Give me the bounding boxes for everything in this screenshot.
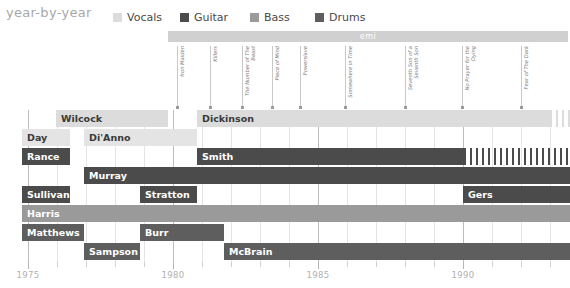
x-axis: 1975198019851990 bbox=[0, 262, 570, 288]
axis-tick-1975 bbox=[28, 262, 29, 269]
stripe bbox=[542, 148, 544, 165]
axis-tick-1986 bbox=[347, 262, 348, 267]
stripe bbox=[464, 148, 466, 165]
timeline-bar-stratton[interactable]: Stratton bbox=[140, 186, 197, 203]
legend-swatch-icon bbox=[315, 13, 324, 22]
axis-tick-1988 bbox=[405, 262, 406, 267]
timeline-bar-dianno[interactable]: Di'Anno bbox=[84, 129, 197, 146]
timeline-bar-label: Sullivan bbox=[27, 186, 70, 203]
legend-item-bass[interactable]: Bass bbox=[250, 7, 290, 21]
legend-item-vocals[interactable]: Vocals bbox=[113, 7, 162, 21]
legend-swatch-icon bbox=[180, 13, 189, 22]
page-title: year-by-year bbox=[6, 5, 92, 20]
stripe bbox=[482, 148, 484, 165]
timeline-bar-label: Murray bbox=[89, 167, 127, 184]
album-marker-dot-icon bbox=[404, 106, 407, 109]
timeline-row: RanceSmith bbox=[0, 148, 570, 165]
album-marker-label: The Number of The Beast bbox=[244, 46, 256, 106]
album-marker-line bbox=[521, 46, 522, 108]
timeline-bar-sullivan[interactable]: Sullivan bbox=[22, 186, 70, 203]
timeline-bar-murray[interactable]: Murray bbox=[84, 167, 570, 184]
axis-tick-1981 bbox=[202, 262, 203, 267]
album-marker-dot-icon bbox=[461, 106, 464, 109]
timeline-bar-harris[interactable]: Harris bbox=[22, 205, 570, 222]
chart-header: year-by-year VocalsGuitarBassDrums bbox=[0, 0, 570, 28]
axis-tick-1980 bbox=[173, 262, 174, 269]
timeline-bar-smith[interactable]: Smith bbox=[197, 148, 464, 165]
axis-tick-1990 bbox=[463, 262, 464, 269]
album-marker-dot-icon bbox=[271, 106, 274, 109]
timeline-bar-label: Dickinson bbox=[202, 110, 254, 127]
axis-label-1985: 1985 bbox=[306, 270, 329, 280]
album-marker-dot-icon bbox=[176, 106, 179, 109]
axis-tick-1991 bbox=[492, 262, 493, 267]
label-bar-emi-text: emi bbox=[168, 31, 568, 42]
timeline-bar-dickinson[interactable]: Dickinson bbox=[197, 110, 552, 127]
timeline-bar-stripes bbox=[464, 148, 570, 165]
stripe bbox=[554, 148, 556, 165]
timeline-bar-label: Rance bbox=[27, 148, 60, 165]
album-marker-dot-icon bbox=[209, 106, 212, 109]
timeline-bar-mcbrain[interactable]: McBrain bbox=[224, 243, 570, 260]
stripe bbox=[470, 148, 472, 165]
timeline-row: Murray bbox=[0, 167, 570, 184]
album-marker-label: Somewhere in Time bbox=[347, 46, 353, 106]
timeline-bar-rance[interactable]: Rance bbox=[22, 148, 70, 165]
album-marker-dot-icon bbox=[241, 106, 244, 109]
album-marker-line bbox=[405, 46, 406, 108]
stripe bbox=[506, 148, 508, 165]
album-marker-label: Piece of Mind bbox=[274, 46, 280, 106]
timeline-plot: WilcockDickinsonDayDi'AnnoRanceSmithMurr… bbox=[0, 110, 570, 262]
axis-label-1980: 1980 bbox=[161, 270, 184, 280]
legend-item-drums[interactable]: Drums bbox=[315, 7, 365, 21]
album-marker-label: Fear of The Dark bbox=[523, 46, 529, 106]
stripe bbox=[494, 148, 496, 165]
axis-tick-1982 bbox=[231, 262, 232, 267]
timeline-row: SullivanStrattonGers bbox=[0, 186, 570, 203]
album-marker-line bbox=[210, 46, 211, 108]
axis-tick-1977 bbox=[86, 262, 87, 267]
album-marker-label: Powerslave bbox=[302, 46, 308, 106]
album-marker-dot-icon bbox=[520, 106, 523, 109]
axis-label-1975: 1975 bbox=[16, 270, 39, 280]
stripe bbox=[548, 148, 550, 165]
stripe bbox=[488, 148, 490, 165]
axis-tick-1976 bbox=[57, 262, 58, 267]
album-marker-label: Killers bbox=[212, 46, 218, 106]
axis-tick-1987 bbox=[376, 262, 377, 267]
axis-tick-1978 bbox=[115, 262, 116, 267]
timeline-row: Harris bbox=[0, 205, 570, 222]
legend-label: Guitar bbox=[194, 11, 228, 24]
legend-label: Bass bbox=[264, 11, 290, 24]
timeline-bar-label: Day bbox=[27, 129, 47, 146]
axis-label-1990: 1990 bbox=[451, 270, 474, 280]
legend-item-guitar[interactable]: Guitar bbox=[180, 7, 228, 21]
album-marker-line bbox=[462, 46, 463, 108]
timeline-bar-label: Burr bbox=[145, 224, 168, 241]
stripe bbox=[566, 148, 568, 165]
stripe bbox=[562, 110, 564, 127]
stripe bbox=[512, 148, 514, 165]
stripe bbox=[560, 148, 562, 165]
stripe bbox=[530, 148, 532, 165]
album-marker-label: No Prayer for the Dying bbox=[464, 46, 476, 106]
axis-tick-1989 bbox=[434, 262, 435, 267]
axis-tick-1992 bbox=[521, 262, 522, 267]
album-marker-dot-icon bbox=[344, 106, 347, 109]
timeline-bar-day[interactable]: Day bbox=[22, 129, 70, 146]
album-marker-line bbox=[177, 46, 178, 108]
legend-swatch-icon bbox=[113, 13, 122, 22]
timeline-bar-gers[interactable]: Gers bbox=[463, 186, 570, 203]
album-marker-line bbox=[242, 46, 243, 108]
label-bar-emi: emi bbox=[168, 31, 568, 42]
album-marker-line bbox=[345, 46, 346, 108]
timeline-row: SampsonMcBrain bbox=[0, 243, 570, 260]
timeline-row: MatthewsBurr bbox=[0, 224, 570, 241]
album-label-band: emi Iron MaidenKillersThe Number of The … bbox=[0, 30, 570, 108]
legend-label: Vocals bbox=[127, 11, 162, 24]
timeline-bar-burr[interactable]: Burr bbox=[140, 224, 224, 241]
timeline-bar-sampson[interactable]: Sampson bbox=[84, 243, 140, 260]
timeline-bar-wilcock[interactable]: Wilcock bbox=[56, 110, 168, 127]
timeline-bar-matthews[interactable]: Matthews bbox=[22, 224, 84, 241]
axis-tick-1983 bbox=[260, 262, 261, 267]
